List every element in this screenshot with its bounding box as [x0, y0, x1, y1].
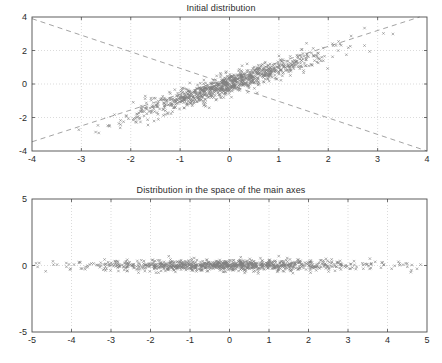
x-tick-label: -4: [28, 154, 36, 164]
scatter-plot-initial-distribution: -4-3-2-101234-4-2024: [0, 0, 442, 182]
x-tick-label: 1: [266, 335, 271, 345]
x-tick-label: 2: [306, 335, 311, 345]
chart-panel-initial-distribution: Initial distribution -4-3-2-101234-4-202…: [0, 0, 442, 182]
x-tick-label: 0: [227, 335, 232, 345]
x-tick-label: -2: [127, 154, 135, 164]
x-tick-label: -1: [186, 335, 194, 345]
x-tick-label: 3: [375, 154, 380, 164]
y-tick-label: 4: [22, 12, 27, 22]
figure-container: Initial distribution -4-3-2-101234-4-202…: [0, 0, 442, 363]
x-tick-label: -3: [107, 335, 115, 345]
scatter-plot-main-axes: -5-4-3-2-1012345-505: [0, 181, 442, 363]
x-tick-label: -3: [77, 154, 85, 164]
y-tick-label: -2: [19, 113, 27, 123]
x-tick-label: -2: [146, 335, 154, 345]
x-tick-label: 2: [326, 154, 331, 164]
x-tick-label: 4: [424, 154, 429, 164]
x-tick-label: 5: [424, 335, 429, 345]
y-tick-label: 0: [22, 79, 27, 89]
chart-panel-main-axes: Distribution in the space of the main ax…: [0, 181, 442, 363]
x-tick-label: -1: [176, 154, 184, 164]
y-tick-label: 0: [22, 261, 27, 271]
scatter-points: [35, 255, 422, 275]
y-tick-label: -4: [19, 146, 27, 156]
scatter-points: [78, 27, 395, 134]
y-tick-label: -5: [19, 327, 27, 337]
y-tick-label: 5: [22, 194, 27, 204]
x-tick-label: 3: [345, 335, 350, 345]
x-tick-label: 0: [227, 154, 232, 164]
x-tick-label: 4: [385, 335, 390, 345]
x-tick-label: 1: [276, 154, 281, 164]
x-tick-label: -5: [28, 335, 36, 345]
x-tick-label: -4: [67, 335, 75, 345]
y-tick-label: 2: [22, 46, 27, 56]
